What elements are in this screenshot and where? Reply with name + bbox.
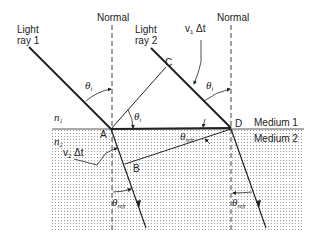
light-ray-2-label-line1: Light xyxy=(135,25,157,35)
medium-1-label: Medium 1 xyxy=(254,118,298,128)
n2-label: n2 xyxy=(54,136,63,150)
theta-refr-label-2: θrefr xyxy=(232,197,246,211)
medium-2-region xyxy=(52,129,304,230)
point-C-label: C xyxy=(165,58,172,68)
point-B-label: B xyxy=(133,164,140,174)
light-ray-2-label-line2: ray 2 xyxy=(135,36,157,46)
theta-refr-label-1: θrefr xyxy=(112,197,126,211)
theta-refr-arrow-top xyxy=(203,119,205,127)
v1dt-pointer xyxy=(194,40,201,84)
light-ray-1-label-line2: ray 1 xyxy=(17,36,39,46)
light-ray-1-label-line1: Light xyxy=(17,25,39,35)
theta-refr-label-D: θrefr xyxy=(180,131,194,145)
point-A-label: A xyxy=(100,130,107,140)
light-ray-2 xyxy=(151,48,231,128)
v1-dt-label: v1 Δt xyxy=(185,24,206,37)
n1-label: n1 xyxy=(54,112,63,126)
theta-i-arc-A xyxy=(128,110,133,128)
v2-dt-label: v2 Δt xyxy=(63,148,84,161)
theta-i-label-A: θi xyxy=(134,111,141,125)
theta-i-label-1: θi xyxy=(85,80,92,94)
normal-label-left: Normal xyxy=(97,13,129,23)
medium-2-label: Medium 2 xyxy=(254,134,298,144)
point-D-label: D xyxy=(235,119,242,129)
wavefront-AD xyxy=(111,128,231,129)
light-ray-1 xyxy=(29,47,111,129)
theta-i-label-2: θi xyxy=(206,80,213,94)
normal-label-right: Normal xyxy=(217,13,249,23)
